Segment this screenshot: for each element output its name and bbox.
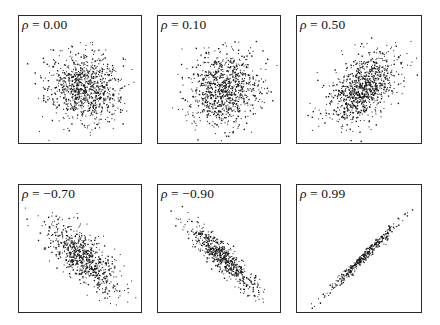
data-point <box>120 271 121 272</box>
data-point <box>83 111 84 112</box>
data-point <box>192 246 193 247</box>
data-point <box>99 123 100 124</box>
data-point <box>73 259 74 260</box>
data-point <box>213 252 214 253</box>
data-point <box>212 84 213 85</box>
data-point <box>77 74 78 75</box>
data-point <box>55 62 56 63</box>
data-point <box>89 80 90 81</box>
data-point <box>352 73 353 74</box>
data-point <box>207 251 208 252</box>
data-point <box>370 246 371 247</box>
data-point <box>71 240 72 241</box>
data-point <box>376 52 377 53</box>
data-point <box>91 75 92 76</box>
data-point <box>361 257 362 258</box>
data-point <box>370 96 371 97</box>
data-point <box>94 268 95 269</box>
data-point <box>87 244 88 245</box>
data-point <box>75 105 76 106</box>
data-point <box>95 97 96 98</box>
data-point <box>344 99 345 100</box>
data-point <box>237 276 238 277</box>
data-point <box>335 284 336 285</box>
data-point <box>40 75 41 76</box>
data-point <box>353 65 354 66</box>
data-point <box>213 80 214 81</box>
data-point <box>262 101 263 102</box>
data-point <box>390 72 391 73</box>
data-point <box>95 118 96 119</box>
data-point <box>369 54 370 55</box>
data-point <box>92 256 93 257</box>
data-point <box>66 242 67 243</box>
data-point <box>219 262 220 263</box>
data-point <box>78 253 79 254</box>
data-point <box>106 278 107 279</box>
data-point <box>93 101 94 102</box>
data-point <box>208 52 209 53</box>
data-point <box>236 121 237 122</box>
data-point <box>221 115 222 116</box>
data-point <box>80 238 81 239</box>
data-point <box>92 42 93 43</box>
data-point <box>68 74 69 75</box>
data-point <box>117 283 118 284</box>
data-point <box>236 276 237 277</box>
data-point <box>100 86 101 87</box>
data-point <box>93 68 94 69</box>
data-point <box>92 107 93 108</box>
data-point <box>63 109 64 110</box>
data-point <box>67 255 68 256</box>
data-point <box>198 232 199 233</box>
data-point <box>378 103 379 104</box>
data-point <box>313 111 314 112</box>
data-point <box>79 271 80 272</box>
data-point <box>60 242 61 243</box>
data-point <box>217 82 218 83</box>
data-point <box>371 245 372 246</box>
data-point <box>198 64 199 65</box>
data-point <box>236 81 237 82</box>
data-point <box>218 72 219 73</box>
data-point <box>58 235 59 236</box>
data-point <box>63 80 64 81</box>
data-point <box>358 88 359 89</box>
data-point <box>388 83 389 84</box>
data-point <box>114 78 115 79</box>
data-point <box>238 272 239 273</box>
data-point <box>221 84 222 85</box>
data-point <box>50 243 51 244</box>
data-point <box>387 80 388 81</box>
data-point <box>374 65 375 66</box>
data-point <box>181 64 182 65</box>
data-point <box>200 65 201 66</box>
data-point <box>220 257 221 258</box>
data-point <box>238 90 239 91</box>
data-point <box>71 71 72 72</box>
data-point <box>389 77 390 78</box>
data-point <box>71 253 72 254</box>
data-point <box>351 93 352 94</box>
data-point <box>222 271 223 272</box>
data-point <box>208 54 209 55</box>
data-point <box>63 98 64 99</box>
data-point <box>394 88 395 89</box>
data-point <box>196 93 197 94</box>
data-point <box>342 90 343 91</box>
data-point <box>381 94 382 95</box>
data-point <box>362 89 363 90</box>
data-point <box>350 98 351 99</box>
data-point <box>113 94 114 95</box>
data-point <box>232 270 233 271</box>
data-point <box>352 91 353 92</box>
data-point <box>236 279 237 280</box>
data-point <box>124 86 125 87</box>
data-point <box>214 101 215 102</box>
data-point <box>101 55 102 56</box>
data-point <box>233 267 234 268</box>
scatter-plot-area <box>297 16 423 145</box>
data-point <box>99 86 100 87</box>
data-point <box>227 96 228 97</box>
data-point <box>241 260 242 261</box>
